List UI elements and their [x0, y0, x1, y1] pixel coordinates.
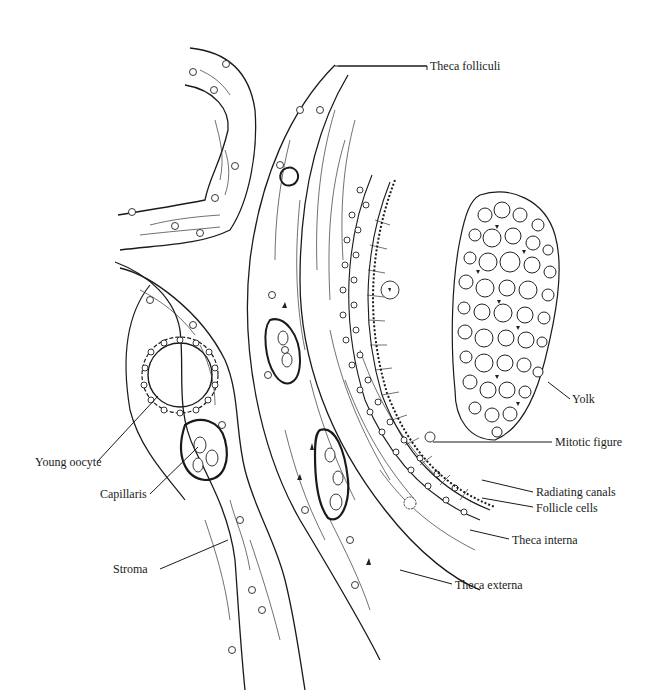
- label-stroma: Stroma: [113, 562, 148, 576]
- histology-figure: Theca folliculi Yolk Mitotic figure Radi…: [0, 0, 662, 695]
- yolk-mass: [452, 192, 559, 440]
- label-capillaris: Capillaris: [100, 487, 147, 501]
- theca-interna-band: [300, 75, 480, 590]
- label-young-oocyte: Young oocyte: [35, 455, 101, 469]
- theca-externa-band: [247, 65, 380, 660]
- follicle-drawing: [0, 0, 662, 695]
- label-yolk: Yolk: [572, 392, 595, 406]
- follicle-epithelium: [340, 175, 495, 520]
- label-theca-folliculi: Theca folliculi: [430, 59, 500, 73]
- label-theca-interna: Theca interna: [512, 533, 578, 547]
- label-theca-externa: Theca externa: [455, 578, 523, 592]
- upper-stroma-strand: [118, 48, 256, 250]
- follicle-cells-cluster: [340, 187, 467, 515]
- oocyte-follicle-cells: [141, 337, 218, 416]
- lower-stroma-strand: [115, 262, 305, 690]
- label-mitotic-figure: Mitotic figure: [555, 435, 622, 449]
- label-follicle-cells: Follicle cells: [536, 501, 598, 515]
- label-radiating-canals: Radiating canals: [536, 485, 616, 499]
